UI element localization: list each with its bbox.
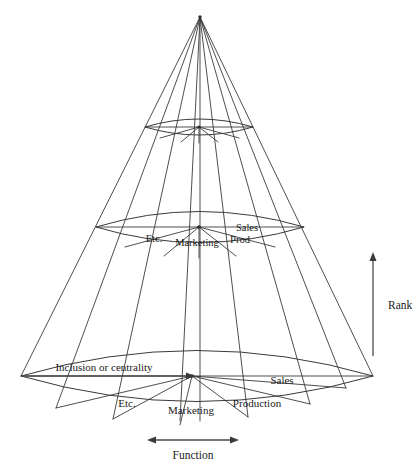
rank-axis: Rank <box>370 252 413 356</box>
bottom-sector-label-marketing: Marketing <box>168 404 214 416</box>
middle-sector-label-sales: Sales <box>236 222 258 233</box>
cone-diagram-canvas: Rank Inclusion or centrality Function Et… <box>0 0 418 469</box>
middle-sector-label-marketing: Marketing <box>175 237 219 248</box>
bottom-ring-sector-labels: Etc. Marketing Production Sales <box>118 374 293 416</box>
function-arrow-head-left-icon <box>147 437 156 444</box>
rank-axis-label: Rank <box>388 299 413 311</box>
cone-diagram-figure: Rank Inclusion or centrality Function Et… <box>0 0 418 469</box>
middle-sector-label-prod: Prod <box>230 234 251 245</box>
function-axis: Function <box>147 437 239 461</box>
bottom-sector-label-etc: Etc. <box>118 397 136 409</box>
function-arrow-head-right-icon <box>230 437 239 444</box>
top-ring-group <box>145 119 253 143</box>
function-axis-label: Function <box>173 449 214 461</box>
inclusion-axis-label: Inclusion or centrality <box>55 361 153 373</box>
rank-arrow-head-icon <box>370 252 377 261</box>
middle-sector-label-etc: Etc. <box>146 233 163 244</box>
middle-ring-sector-labels: Etc. Marketing Prod Sales <box>146 222 258 248</box>
bottom-sector-label-sales: Sales <box>270 374 293 386</box>
cone-apex-point <box>198 15 201 18</box>
bottom-sector-label-production: Production <box>233 397 282 409</box>
inclusion-axis: Inclusion or centrality <box>22 361 195 380</box>
inclusion-arrow-head-icon <box>186 373 195 380</box>
